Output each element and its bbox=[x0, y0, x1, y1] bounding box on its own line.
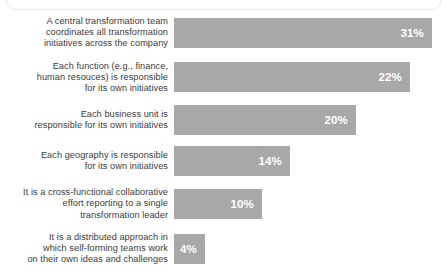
bar-row: Each business unit isresponsible for its… bbox=[0, 105, 447, 135]
bar-fill: 31% bbox=[174, 18, 432, 48]
bar-category-label-line: A central transformation team bbox=[0, 16, 168, 27]
bar-row: A central transformation teamcoordinates… bbox=[0, 16, 447, 50]
bar-category-label-line: for its own initiatives bbox=[0, 161, 168, 172]
bar-category-label-line: It is a distributed approach in bbox=[0, 232, 168, 243]
bar-category-label-line: effort reporting to a single bbox=[0, 198, 168, 209]
bar-track: 22% bbox=[174, 62, 447, 92]
bar-fill: 14% bbox=[174, 146, 290, 176]
page-edge-artifact bbox=[6, 0, 441, 10]
bar-fill: 20% bbox=[174, 105, 356, 135]
bar-category-label-line: on their own ideas and challenges bbox=[0, 254, 168, 265]
bar-category-label: Each geography is responsiblefor its own… bbox=[0, 150, 168, 172]
bar-value-label: 31% bbox=[400, 27, 424, 39]
bar-track: 20% bbox=[174, 105, 447, 135]
bar-category-label-line: responsible for its own initiatives bbox=[0, 120, 168, 131]
bar-category-label-line: coordinates all transformation bbox=[0, 27, 168, 38]
bar-track: 4% bbox=[174, 234, 447, 264]
bar-chart-figure: A central transformation teamcoordinates… bbox=[0, 0, 447, 274]
bar-row: Each function (e.g., finance,human resou… bbox=[0, 61, 447, 95]
bar-value-label: 20% bbox=[324, 114, 348, 126]
bar-category-label-line: for its own initiatives bbox=[0, 83, 168, 94]
bar-value-label: 14% bbox=[258, 155, 282, 167]
bar-category-label-line: Each function (e.g., finance, bbox=[0, 61, 168, 72]
bar-row: It is a cross-functional collaborativeef… bbox=[0, 187, 447, 221]
bar-category-label-line: transformation leader bbox=[0, 210, 168, 221]
bar-category-label: It is a cross-functional collaborativeef… bbox=[0, 187, 168, 221]
bar-category-label: It is a distributed approach inwhich sel… bbox=[0, 232, 168, 266]
bar-category-label-line: human resouces) is responsible bbox=[0, 72, 168, 83]
bar-category-label-line: Each business unit is bbox=[0, 109, 168, 120]
bar-track: 31% bbox=[174, 18, 447, 48]
bar-fill: 10% bbox=[174, 189, 262, 219]
bar-row: It is a distributed approach inwhich sel… bbox=[0, 232, 447, 266]
bar-track: 14% bbox=[174, 146, 447, 176]
bar-category-label-line: It is a cross-functional collaborative bbox=[0, 187, 168, 198]
bar-value-label: 4% bbox=[180, 243, 197, 255]
bar-row: Each geography is responsiblefor its own… bbox=[0, 146, 447, 176]
bar-value-label: 22% bbox=[378, 71, 402, 83]
bar-category-label: Each business unit isresponsible for its… bbox=[0, 109, 168, 131]
bar-track: 10% bbox=[174, 189, 447, 219]
bar-category-label-line: which self-forming teams work bbox=[0, 243, 168, 254]
bar-category-label-line: initiatives across the company bbox=[0, 38, 168, 49]
bar-fill: 22% bbox=[174, 62, 410, 92]
bar-fill: 4% bbox=[174, 234, 205, 264]
bar-chart-rows: A central transformation teamcoordinates… bbox=[0, 16, 447, 274]
bar-category-label: Each function (e.g., finance,human resou… bbox=[0, 61, 168, 95]
bar-category-label-line: Each geography is responsible bbox=[0, 150, 168, 161]
bar-category-label: A central transformation teamcoordinates… bbox=[0, 16, 168, 50]
bar-value-label: 10% bbox=[230, 198, 254, 210]
